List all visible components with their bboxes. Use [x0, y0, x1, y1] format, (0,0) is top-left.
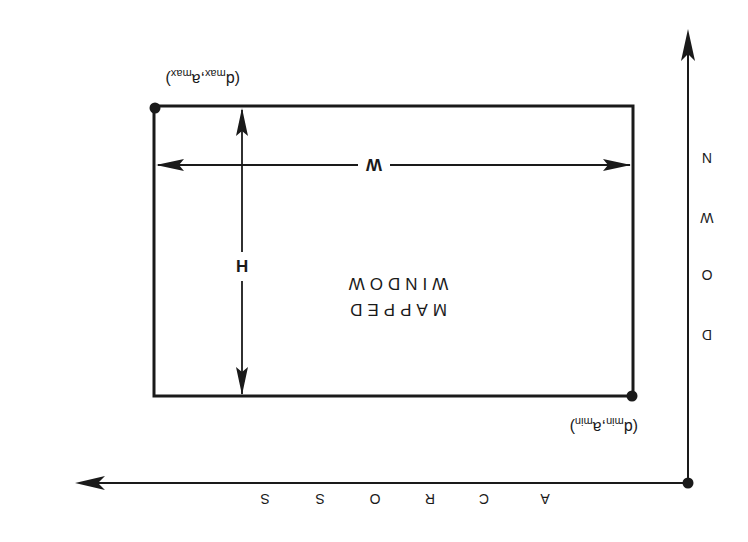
down-label: D O W N	[700, 150, 714, 343]
mapped-window-line-1: MAPPED	[345, 300, 447, 319]
mapped-window-label: MAPPED WINDOW	[344, 274, 449, 319]
across-letter: C	[479, 491, 489, 507]
across-label: A C R O S S	[260, 491, 549, 507]
width-label: W	[365, 155, 382, 174]
across-letter: R	[425, 491, 435, 507]
across-letter: S	[260, 491, 269, 507]
width-dimension: W	[156, 155, 631, 174]
down-letter: O	[701, 267, 712, 283]
height-dimension: H	[236, 108, 248, 395]
mapped-window-rect	[154, 106, 633, 396]
across-letter: O	[369, 491, 380, 507]
height-label: H	[236, 256, 248, 275]
down-letter: N	[702, 150, 712, 166]
down-letter: W	[700, 210, 714, 226]
origin-dot-icon	[683, 478, 694, 489]
max-corner-label: (dmax,amax)	[166, 68, 240, 88]
mapped-window-line-2: WINDOW	[344, 274, 449, 293]
min-corner-label: (dmin,amin)	[570, 416, 638, 436]
min-corner-dot-icon	[627, 391, 638, 402]
diagram-canvas: A C R O S S D O W N W	[0, 0, 748, 542]
across-letter: A	[540, 491, 550, 507]
max-corner-dot-icon	[150, 103, 161, 114]
across-letter: S	[315, 491, 324, 507]
down-letter: D	[702, 327, 712, 343]
